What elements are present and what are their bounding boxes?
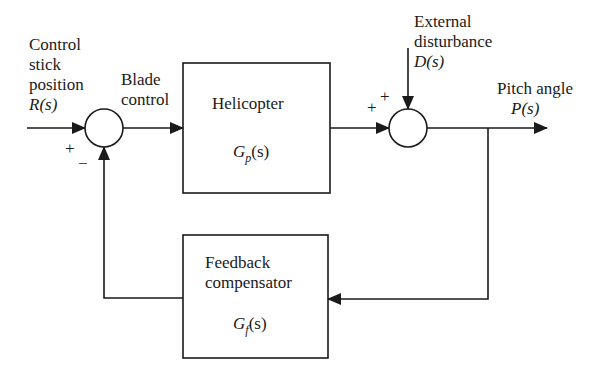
disturbance-line-2: disturbance [414,32,492,52]
gp-sub: p [245,151,251,165]
gp-base: G [233,142,245,161]
sum2-plus-sign-left: + [367,99,377,116]
sum2-plus-sign-top: + [380,88,390,105]
gf-base: G [233,314,245,333]
block-diagram: Control stick position R(s) Blade contro… [0,0,603,381]
feedback-label: Feedback compensator [205,253,292,293]
blade-control-line-2: control [121,90,169,110]
gf-sub: f [245,323,248,337]
summing-junction-2 [389,109,427,147]
blade-control-line-1: Blade [121,70,169,90]
gp-arg: (s) [251,142,269,161]
feedback-line-2: compensator [205,273,292,293]
feedback-tap-line [328,128,488,299]
diagram-lines [0,0,603,381]
sum1-minus-sign: − [78,155,88,172]
output-signal-p: P(s) [511,99,539,119]
output-label: Pitch angle [497,79,573,99]
helicopter-block [183,63,330,193]
plant-transfer-fn: Gp(s) [233,142,269,163]
helicopter-label: Helicopter [212,94,284,114]
disturbance-label: External disturbance D(s) [414,12,492,72]
disturbance-signal-d: D(s) [414,52,492,72]
input-label-line-3: position [29,75,84,95]
feedback-transfer-fn: Gf(s) [233,314,267,335]
sum1-plus-sign: + [65,140,75,157]
disturbance-line-1: External [414,12,492,32]
input-label: Control stick position R(s) [29,35,84,115]
summing-junction-1 [85,109,123,147]
feedback-return-line [104,147,183,298]
gf-arg: (s) [249,314,267,333]
input-label-line-2: stick [29,55,84,75]
blade-control-label: Blade control [121,70,169,110]
input-label-line-1: Control [29,35,84,55]
input-signal-r: R(s) [29,95,84,115]
feedback-line-1: Feedback [205,253,292,273]
